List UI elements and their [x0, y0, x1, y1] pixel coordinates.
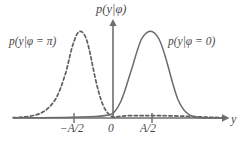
tick-label-negative-half-a: −A/2: [60, 123, 84, 135]
curve-label-phi-pi: p(y|φ = π): [9, 36, 56, 48]
y-axis-arrowhead: [109, 19, 116, 26]
tick-label-positive-half-a: A/2: [140, 123, 156, 135]
curve-label-phi-zero: p(y|φ = 0): [168, 36, 215, 48]
x-axis-label: y: [231, 113, 236, 125]
tick-label-zero: 0: [108, 123, 114, 135]
probability-density-figure: p(y|φ) p(y|φ = π) p(y|φ = 0) y −A/2 0 A/…: [0, 0, 247, 143]
x-axis-arrowhead: [222, 114, 230, 122]
plot-canvas: [0, 0, 247, 143]
y-axis-label: p(y|φ): [96, 3, 126, 16]
